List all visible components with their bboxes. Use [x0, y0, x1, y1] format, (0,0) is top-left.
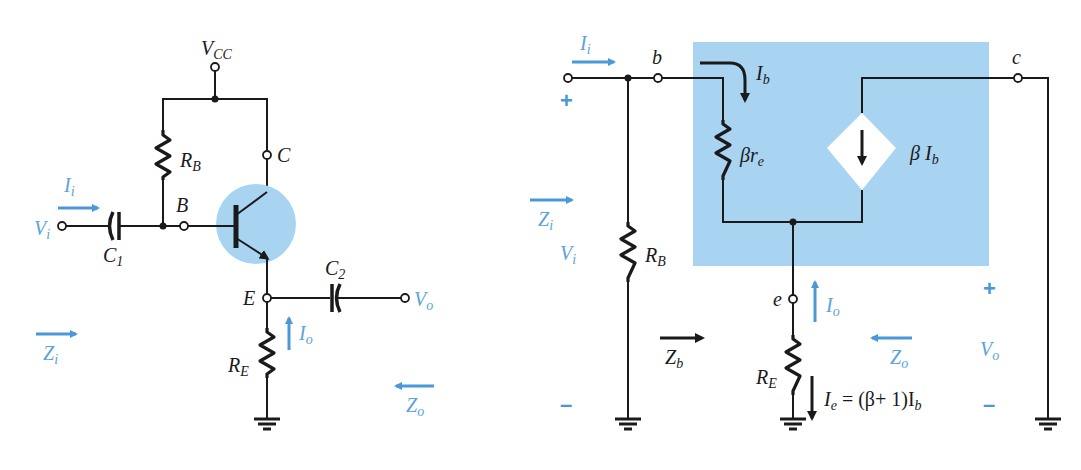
vcc-terminal: [211, 63, 219, 71]
emitter-terminal: [263, 294, 271, 302]
zi-label-right: Zi: [538, 208, 553, 233]
vo-minus-sign: –: [983, 392, 995, 417]
input-terminal: [58, 222, 66, 230]
c1-label: C1: [103, 244, 123, 269]
zo-label-left: Zo: [406, 394, 424, 419]
ii-label-left: Ii: [63, 174, 75, 199]
c2-label: C2: [325, 257, 345, 282]
node-b-label: b: [652, 46, 662, 68]
emitter-label: E: [242, 287, 255, 309]
ground-icon: [254, 419, 280, 429]
input-terminal-right: [564, 74, 572, 82]
collector-terminal: [263, 151, 271, 159]
ii-label-right: Ii: [579, 32, 591, 57]
collector-label: C: [277, 144, 291, 166]
base-label: B: [176, 194, 188, 216]
circuit-diagrams: VCC RB C Vi C1 B: [0, 0, 1081, 470]
vi-plus-sign: +: [560, 88, 573, 113]
re-label-right: RE: [755, 366, 777, 391]
ground-icon: [1035, 419, 1061, 429]
resistor-re-icon: [786, 335, 800, 395]
base-terminal: [180, 222, 188, 230]
rb-label-right: RB: [644, 244, 666, 269]
output-terminal: [401, 294, 409, 302]
zb-label: Zb: [665, 346, 683, 371]
node-c-label: c: [1012, 46, 1021, 68]
ground-icon: [615, 419, 641, 429]
rb-label: RB: [179, 149, 201, 174]
ie-equation: Ie = (β+ 1)Ib: [823, 388, 922, 413]
vcc-label: VCC: [201, 37, 233, 62]
emitter-follower-schematic: VCC RB C Vi C1 B: [34, 37, 434, 429]
re-label-left: RE: [227, 354, 249, 379]
emitter-node-e: [789, 295, 797, 303]
resistor-rb-icon: [621, 222, 635, 282]
zo-label-right: Zo: [890, 346, 908, 371]
capacitor-c1-icon: [110, 212, 120, 240]
base-node-b: [654, 74, 662, 82]
io-label-right: Io: [825, 294, 840, 319]
re-model-equivalent-circuit: b Ii + Ib βre β Ib c RB: [530, 32, 1061, 429]
vo-label-right: Vo: [980, 338, 999, 363]
collector-node-c: [1014, 74, 1022, 82]
junction-dot: [160, 223, 167, 230]
resistor-rb-icon: [156, 130, 170, 180]
resistor-re-icon: [260, 328, 274, 378]
zi-label-left: Zi: [43, 342, 58, 367]
node-e-label: e: [773, 288, 782, 310]
vi-label-right: Vi: [560, 242, 576, 267]
vi-minus-sign: –: [560, 392, 572, 417]
vo-plus-sign: +: [983, 276, 996, 301]
ground-icon: [780, 419, 806, 429]
vi-label-left: Vi: [34, 217, 50, 242]
vo-label-left: Vo: [414, 288, 433, 313]
io-label-left: Io: [298, 322, 313, 347]
